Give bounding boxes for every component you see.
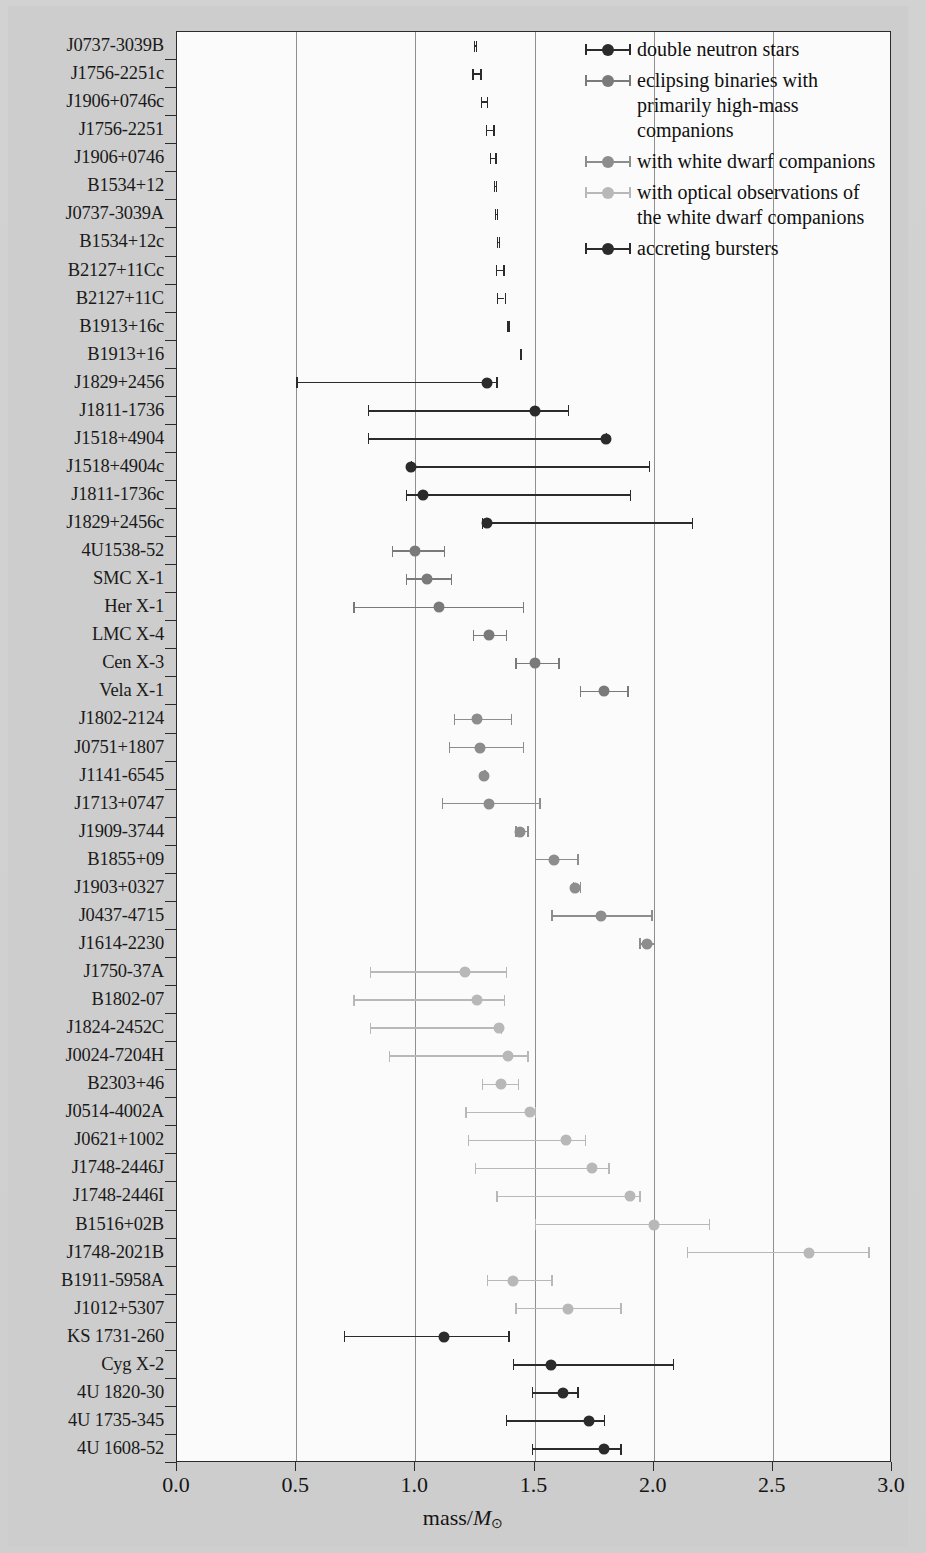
- y-axis-label-j1756-2251: J1756-2251: [79, 120, 164, 139]
- data-point-marker: [508, 1275, 519, 1286]
- data-point-marker: [472, 995, 483, 1006]
- legend-ldot: [602, 44, 614, 56]
- data-point-marker: [624, 1191, 635, 1202]
- y-tick: [165, 1097, 176, 1098]
- y-axis-label-ks-1731-260: KS 1731-260: [67, 1326, 164, 1345]
- error-bar-cap-low: [344, 1331, 345, 1342]
- y-axis-label-j1829-2456: J1829+2456: [74, 372, 164, 391]
- y-axis-label-4u-1735-345: 4U 1735-345: [68, 1411, 164, 1430]
- x-axis-title-symbol: M: [473, 1505, 491, 1530]
- error-bar-cap-low: [535, 1219, 536, 1230]
- error-bar-cap-high: [499, 237, 500, 248]
- x-tick-2.5: [772, 1462, 773, 1471]
- data-point-marker: [524, 1107, 535, 1118]
- error-bar-cap-high: [451, 574, 452, 585]
- error-bar-cap-low: [496, 1191, 497, 1202]
- data-point-marker: [803, 1247, 814, 1258]
- y-axis-label-j1518-4904: J1518+4904: [74, 429, 164, 448]
- x-tick-label-1.0: 1.0: [401, 1472, 429, 1498]
- legend-label: accreting bursters: [637, 236, 887, 261]
- error-bar-cap-low: [486, 125, 487, 136]
- error-bar-cap-high: [868, 1247, 869, 1258]
- error-bar: [406, 494, 630, 495]
- legend-label: double neutron stars: [637, 37, 887, 62]
- legend-lcapR: [629, 156, 631, 167]
- y-axis-label-4u1538-52: 4U1538-52: [82, 541, 164, 560]
- y-tick: [165, 1294, 176, 1295]
- y-tick: [165, 845, 176, 846]
- legend-label: with white dwarf companions: [637, 149, 887, 174]
- error-bar-cap-low: [687, 1247, 688, 1258]
- error-bar-cap-low: [482, 1079, 483, 1090]
- data-point-marker: [434, 602, 445, 613]
- y-axis-label-her-x-1: Her X-1: [104, 597, 164, 616]
- legend-lcapL: [585, 243, 587, 254]
- y-tick: [165, 227, 176, 228]
- x-tick-2.0: [653, 1462, 654, 1471]
- legend-lcapL: [585, 187, 587, 198]
- y-tick: [165, 1322, 176, 1323]
- y-axis-label-j1614-2230: J1614-2230: [79, 934, 164, 953]
- y-tick: [165, 817, 176, 818]
- y-axis-label-j0437-4715: J0437-4715: [79, 906, 164, 925]
- y-tick: [165, 1069, 176, 1070]
- error-bar-cap-high: [639, 1191, 640, 1202]
- error-bar-cap-high: [523, 602, 524, 613]
- y-axis-label-j1141-6545: J1141-6545: [79, 765, 164, 784]
- error-bar: [370, 1027, 501, 1028]
- error-bar-cap-high: [496, 377, 497, 388]
- error-bar-cap-high: [620, 1303, 621, 1314]
- y-tick: [165, 312, 176, 313]
- data-point-marker: [484, 798, 495, 809]
- error-bar-cap-high: [480, 69, 481, 80]
- y-tick: [165, 564, 176, 565]
- y-axis-label-j0751-1807: J0751+1807: [74, 737, 164, 756]
- error-bar-cap-low: [475, 1163, 476, 1174]
- error-bar-cap-low: [551, 910, 552, 921]
- data-point-marker: [598, 1444, 609, 1455]
- y-tick: [165, 648, 176, 649]
- error-bar-cap-high: [503, 265, 504, 276]
- error-bar-cap-high: [577, 1387, 578, 1398]
- error-bar-cap-low: [535, 854, 536, 865]
- y-tick: [165, 1153, 176, 1154]
- error-bar: [487, 1280, 551, 1281]
- y-axis-label-j1756-2251c: J1756-2251c: [71, 64, 164, 83]
- error-bar-cap-low: [474, 41, 475, 52]
- data-point-marker: [422, 574, 433, 585]
- legend-lcapL: [585, 75, 587, 86]
- error-bar-cap-high: [476, 41, 477, 52]
- error-bar-cap-high: [604, 1415, 605, 1426]
- error-bar-cap-low: [468, 1135, 469, 1146]
- legend-ldot: [602, 187, 614, 199]
- error-bar: [449, 747, 523, 748]
- error-bar-cap-high: [497, 209, 498, 220]
- error-bar-cap-high: [527, 826, 528, 837]
- data-point-marker: [484, 630, 495, 641]
- data-point-marker: [515, 826, 526, 837]
- error-bar: [687, 1252, 868, 1253]
- y-axis-label-b2127-11c: B2127+11C: [76, 288, 164, 307]
- x-tick-label-1.5: 1.5: [520, 1472, 548, 1498]
- legend-lcapR: [629, 187, 631, 198]
- y-tick: [165, 508, 176, 509]
- y-axis-label-b1911-5958a: B1911-5958A: [61, 1270, 164, 1289]
- error-bar-cap-low: [442, 798, 443, 809]
- error-bar-cap-high: [654, 938, 655, 949]
- data-point-marker: [438, 1331, 449, 1342]
- data-point-marker: [548, 854, 559, 865]
- y-tick: [165, 1378, 176, 1379]
- y-axis-label-b2127-11cc: B2127+11Cc: [68, 260, 164, 279]
- data-point-marker: [570, 882, 581, 893]
- y-tick: [165, 171, 176, 172]
- data-point-marker: [410, 546, 421, 557]
- error-bar-cap-low: [454, 714, 455, 725]
- y-axis-label-b1534-12c: B1534+12c: [79, 232, 164, 251]
- error-bar-cap-low: [449, 742, 450, 753]
- y-tick: [165, 761, 176, 762]
- legend-lcapR: [629, 75, 631, 86]
- x-tick-1.0: [414, 1462, 415, 1471]
- y-axis-label-j1903-0327: J1903+0327: [74, 878, 164, 897]
- data-point-marker: [529, 405, 540, 416]
- error-bar-cap-low: [296, 377, 297, 388]
